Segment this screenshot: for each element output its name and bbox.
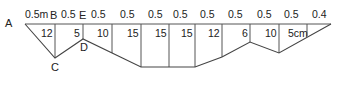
interval-labels: 0.5m 0.5 0.5 0.5 0.5 0.5 0.5 0.5 0.5 0.5… — [25, 8, 327, 20]
point-label-e: E — [79, 9, 86, 21]
depth-label: 10 — [97, 27, 109, 39]
interval-label: 0.5 — [148, 8, 163, 20]
depth-labels: 12 5 10 15 15 15 12 6 10 5cm — [41, 27, 308, 39]
cross-section-diagram: A B E C D 0.5m 0.5 0.5 0.5 0.5 0.5 0.5 0… — [0, 0, 349, 88]
depth-label: 6 — [242, 27, 248, 39]
point-label-a: A — [5, 17, 13, 29]
depth-label: 12 — [41, 27, 53, 39]
depth-label: 10 — [265, 27, 277, 39]
depth-label: 15 — [181, 27, 193, 39]
interval-label: 0.5m — [25, 8, 49, 20]
interval-label: 0.5 — [91, 8, 106, 20]
depth-label: 12 — [208, 27, 220, 39]
depth-label: 15 — [155, 27, 167, 39]
point-label-c: C — [51, 61, 59, 73]
point-label-d: D — [80, 41, 88, 53]
riverbed-profile — [25, 24, 331, 67]
depth-label: 5cm — [288, 27, 308, 39]
interval-label: 0.5 — [228, 8, 243, 20]
interval-label: 0.5 — [61, 8, 76, 20]
interval-label: 0.5 — [173, 8, 188, 20]
interval-label: 0.5 — [257, 8, 272, 20]
depth-label: 15 — [127, 27, 139, 39]
point-label-b: B — [50, 9, 57, 21]
interval-label: 0.5 — [284, 8, 299, 20]
interval-label: 0.4 — [312, 8, 327, 20]
interval-label: 0.5 — [200, 8, 215, 20]
depth-label: 5 — [74, 27, 80, 39]
interval-label: 0.5 — [120, 8, 135, 20]
